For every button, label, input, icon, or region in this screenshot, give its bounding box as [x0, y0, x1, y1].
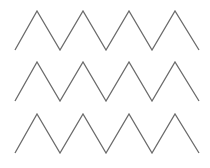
zigzag-line-1	[15, 11, 199, 50]
zigzag-canvas	[0, 0, 210, 168]
zigzag-line-3	[15, 114, 199, 153]
zigzag-diagram	[0, 0, 210, 168]
zigzag-line-2	[15, 62, 199, 101]
